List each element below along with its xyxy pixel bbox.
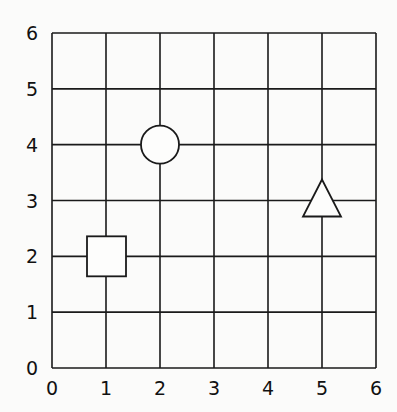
y-tick-label: 1 [26,301,38,323]
x-tick-label: 2 [154,377,166,399]
y-tick-label: 5 [26,78,38,100]
y-tick-label: 2 [26,245,38,267]
y-axis-ticks: 0123456 [26,22,38,379]
x-tick-label: 6 [370,377,382,399]
x-tick-label: 5 [316,377,328,399]
x-tick-label: 1 [100,377,112,399]
x-axis-ticks: 0123456 [46,377,382,399]
triangle-shape [303,180,341,217]
coordinate-grid: 0123456 0123456 [0,0,397,412]
y-tick-label: 4 [26,134,38,156]
y-tick-label: 0 [26,357,38,379]
circle-shape [141,126,179,164]
y-tick-label: 3 [26,190,38,212]
x-tick-label: 3 [208,377,220,399]
x-tick-label: 0 [46,377,58,399]
x-tick-label: 4 [262,377,274,399]
square-shape [87,236,126,276]
y-tick-label: 6 [26,22,38,44]
